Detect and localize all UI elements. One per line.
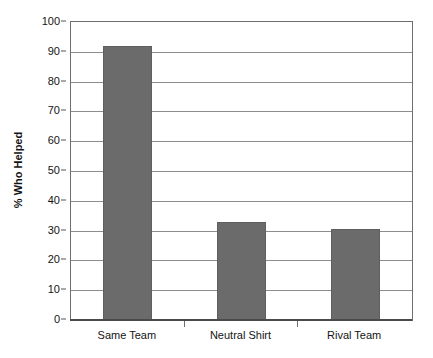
y-tick-mark (61, 170, 66, 171)
y-tick-mark (61, 21, 66, 22)
y-tick-mark (61, 140, 66, 141)
x-tick-label: Neutral Shirt (210, 329, 271, 341)
x-tick-label: Same Team (98, 329, 157, 341)
bar-chart: % Who Helped 0102030405060708090100 Same… (0, 0, 433, 358)
y-tick-label: 40 (48, 194, 60, 206)
y-tick-mark (61, 80, 66, 81)
bar (103, 46, 152, 320)
y-tick-mark (61, 50, 66, 51)
y-tick-mark (61, 319, 66, 320)
y-tick-mark (61, 259, 66, 260)
y-axis-tick-labels: 0102030405060708090100 (30, 21, 66, 319)
y-tick-label: 60 (48, 134, 60, 146)
y-tick-label: 80 (48, 75, 60, 87)
x-tick-mark (297, 321, 298, 327)
y-tick-label: 30 (48, 224, 60, 236)
y-tick-label: 10 (48, 283, 60, 295)
y-tick-label: 100 (42, 15, 60, 27)
plot-area (70, 21, 413, 321)
y-tick-label: 20 (48, 253, 60, 265)
x-axis-tick-labels: Same TeamNeutral ShirtRival Team (70, 329, 411, 347)
bar (217, 222, 266, 320)
x-tick-mark (184, 321, 185, 327)
y-tick-mark (61, 110, 66, 111)
y-tick-label: 70 (48, 104, 60, 116)
bar (331, 229, 380, 320)
x-tick-label: Rival Team (327, 329, 381, 341)
y-tick-mark (61, 289, 66, 290)
y-tick-label: 90 (48, 45, 60, 57)
y-tick-mark (61, 199, 66, 200)
x-axis-tick-marks (70, 321, 411, 328)
y-tick-label: 50 (48, 164, 60, 176)
y-tick-label: 0 (54, 313, 60, 325)
y-axis-title-label: % Who Helped (12, 132, 24, 208)
y-tick-mark (61, 229, 66, 230)
bars-group (71, 22, 412, 320)
